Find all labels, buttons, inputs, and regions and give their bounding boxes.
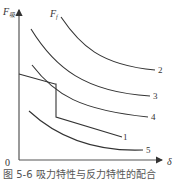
curve-4 [32,65,148,117]
figure-caption: 图 5-6 吸力特性与反力特性的配合 [3,168,156,180]
curve-2 [61,17,155,70]
curve-1-reaction [19,74,122,137]
x-axis-label: δ [167,156,172,167]
y-axis-label: F吸 [2,6,16,18]
curve-5 [29,111,143,150]
curve-1-label: 1 [123,132,128,142]
origin-label: 0 [5,157,10,168]
reaction-force-label: Ff [49,8,59,20]
curve-3-label: 3 [153,91,158,101]
curve-4-label: 4 [151,112,156,122]
force-characteristic-diagram: F吸 δ 0 Ff 2 3 4 1 5 图 5-6 吸力特性与反力特性的配合 [0,0,176,180]
curve-2-label: 2 [158,65,163,75]
curve-5-label: 5 [146,145,151,155]
curve-3 [31,29,150,96]
